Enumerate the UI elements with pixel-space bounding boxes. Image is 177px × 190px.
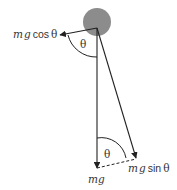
pendulum-force-diagram: mgcosθ θ θ mgsinθ mg xyxy=(0,0,177,190)
mg-sin-arrow xyxy=(97,28,136,158)
theta-arc-bottom xyxy=(97,138,126,158)
label-mg-sin-theta: mgsinθ xyxy=(128,162,169,174)
label-mg-cos-theta: mgcosθ xyxy=(13,28,57,40)
label-theta-top: θ xyxy=(80,38,86,50)
label-mg: mg xyxy=(88,173,105,185)
label-theta-bottom: θ xyxy=(104,148,110,160)
